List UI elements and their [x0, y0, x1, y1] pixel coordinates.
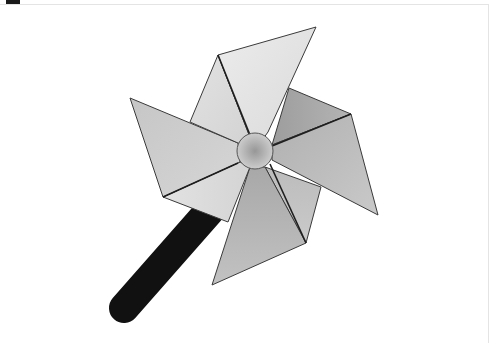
- center-hub: [237, 133, 273, 169]
- stick-handle: [124, 208, 212, 308]
- pinwheel-illustration: [0, 0, 493, 343]
